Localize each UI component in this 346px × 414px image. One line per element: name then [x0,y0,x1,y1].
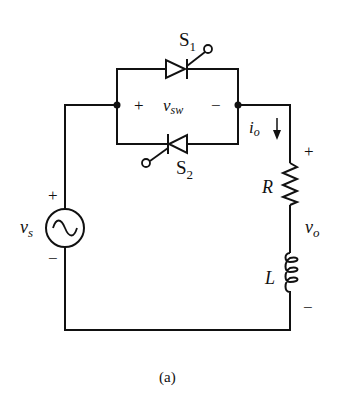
ac-source-icon [46,209,84,247]
vs-label: vs [20,217,33,240]
node-left [114,102,121,109]
node-right [235,102,242,109]
r-label: R [261,177,273,197]
inductor-icon [286,253,298,300]
io-label: io [249,118,260,139]
s2-label: S2 [176,157,193,182]
vo-label: vo [305,217,320,240]
s1-label: S1 [179,29,196,54]
vo-minus: − [303,298,313,317]
vo-plus: + [304,142,314,161]
vsw-minus: − [211,96,221,115]
figure-caption: (a) [159,369,176,386]
vs-plus: + [48,186,58,205]
vsw-label: vsw [163,96,183,117]
l-label: L [264,268,275,288]
circuit-diagram: S1 S2 + vsw − io + − vs R + vo L [0,0,346,414]
arrow-down-icon [273,118,281,140]
vsw-plus: + [134,96,144,115]
vs-minus: − [48,249,58,268]
resistor-icon [283,163,297,205]
